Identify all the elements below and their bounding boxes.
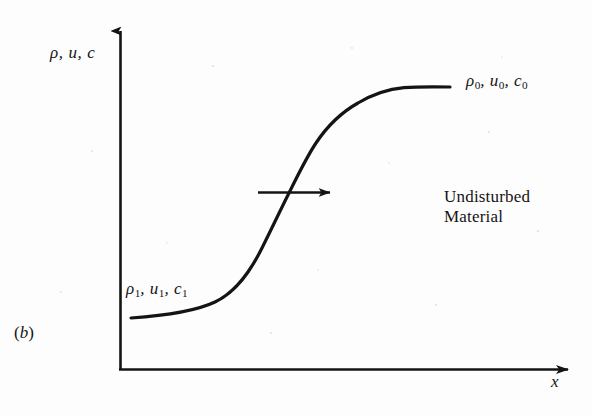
panel-label-paren-close: ) <box>28 323 34 342</box>
panel-label: (b) <box>14 323 34 343</box>
x-axis-label: x <box>551 372 559 392</box>
u-zero-symbol: u0 <box>490 71 505 90</box>
figure-panel-b: ρ, u, c x ρ0, u0, c0 ρ1, u1, c1 Undistur… <box>0 0 592 415</box>
undisturbed-material-line2: Material <box>444 207 530 227</box>
upstream-state-label: ρ0, u0, c0 <box>466 71 528 92</box>
undisturbed-material-label: UndisturbedMaterial <box>444 187 530 227</box>
downstream-state-label: ρ1, u1, c1 <box>126 279 188 300</box>
rho-zero-symbol: ρ0 <box>466 71 480 90</box>
c-one-symbol: c1 <box>174 279 188 298</box>
u-one-symbol: u1 <box>150 279 165 298</box>
undisturbed-material-line1: Undisturbed <box>444 187 530 206</box>
panel-label-letter: b <box>20 323 29 342</box>
y-axis-label: ρ, u, c <box>50 43 95 63</box>
c-zero-symbol: c0 <box>514 71 528 90</box>
rho-one-symbol: ρ1 <box>126 279 140 298</box>
